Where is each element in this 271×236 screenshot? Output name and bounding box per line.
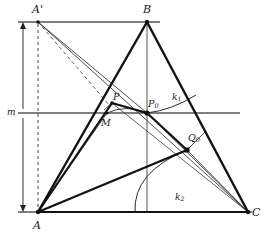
vertex-marker-B xyxy=(145,20,149,24)
dimension-arrowhead-top xyxy=(20,22,26,29)
label-point-M: M xyxy=(101,118,111,128)
arc-k2 xyxy=(135,150,187,212)
label-dimension-m: m xyxy=(7,108,16,117)
label-arc-k1: k1 xyxy=(172,93,181,102)
point-marker-Q0 xyxy=(185,148,190,153)
line-Q0-to-C xyxy=(187,150,248,212)
label-point-Q0-base: Q xyxy=(188,132,196,143)
point-marker-M xyxy=(106,112,109,115)
label-point-Q0: Q0 xyxy=(188,133,200,144)
geometry-figure: A A' B C P M P0 Q0 k1 k2 m xyxy=(0,0,271,236)
line-Aprime-to-P0 xyxy=(38,22,147,113)
label-vertex-A-prime: A' xyxy=(32,4,43,15)
figure-canvas xyxy=(0,0,271,236)
label-arc-k1-subscript: 1 xyxy=(177,95,181,102)
dimension-arrowhead-bottom xyxy=(20,205,26,212)
dashed-line-Aprime-to-P xyxy=(38,22,110,106)
label-point-P: P xyxy=(113,92,119,102)
vertex-marker-C xyxy=(246,210,250,214)
dimension-arrow-m xyxy=(20,22,26,212)
triangle-side-BC xyxy=(147,22,248,212)
label-point-P0-subscript: 0 xyxy=(154,102,158,110)
label-arc-k2-subscript: 2 xyxy=(180,195,184,202)
bold-segment-P0-to-Q0 xyxy=(147,113,187,150)
triangle-side-AB xyxy=(38,22,147,212)
label-vertex-C: C xyxy=(252,207,260,218)
line-Aprime-to-C xyxy=(38,22,248,212)
point-marker-P0 xyxy=(144,110,149,115)
label-point-P0: P0 xyxy=(148,99,159,110)
label-arc-k2: k2 xyxy=(175,193,184,202)
label-vertex-A: A xyxy=(33,220,41,231)
label-vertex-B: B xyxy=(143,4,151,15)
vertex-marker-A-prime xyxy=(36,20,40,24)
label-point-Q0-subscript: 0 xyxy=(196,136,200,144)
vertex-marker-A xyxy=(36,210,40,214)
